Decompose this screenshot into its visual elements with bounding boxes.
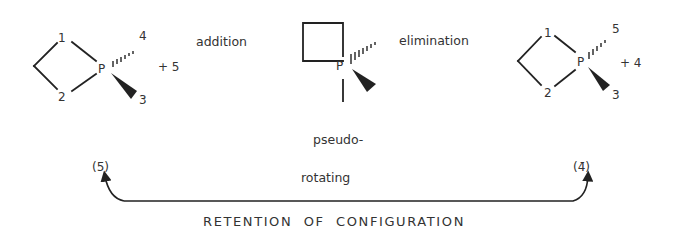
- bond-1-C: [34, 43, 57, 66]
- arrow-right-icon: [124, 176, 588, 201]
- wedge-bond-icon: [111, 73, 137, 99]
- bond-1-P: [72, 42, 96, 61]
- label-pseudo: pseudo-: [313, 132, 363, 147]
- arrow-left-icon: [105, 176, 124, 201]
- label-5-bar: (5̄): [92, 160, 109, 174]
- hashed-bond-icon: [589, 40, 605, 59]
- hashed-bond-icon: [113, 51, 133, 67]
- caption-retention: RETENTION OF CONFIGURATION: [203, 214, 465, 229]
- reactant-structure: 1 2 P 4 3 + 5: [34, 29, 180, 107]
- bond-C-2: [34, 66, 57, 89]
- substituent-3: 3: [139, 93, 147, 107]
- bond-C-2: [518, 61, 541, 85]
- square-ring: [303, 23, 343, 61]
- bond-2-P: [555, 70, 575, 86]
- reaction-diagram: 1 2 P 4 3 + 5 addition P pseudo- rotatin…: [0, 0, 682, 239]
- phosphorus-atom: P: [577, 55, 584, 69]
- substituent-5: 5: [612, 22, 620, 36]
- step-addition: addition: [196, 34, 247, 49]
- wedge-bond-icon: [588, 67, 610, 91]
- ring-label-1: 1: [544, 26, 552, 40]
- bond-2-P: [72, 74, 96, 91]
- step-elimination: elimination: [399, 33, 469, 48]
- wedge-bond-icon: [352, 69, 376, 92]
- label-4-bar: (4̄): [573, 160, 590, 174]
- substituent-4: 4: [139, 29, 147, 43]
- bond-1-C: [518, 37, 541, 61]
- intermediate-structure: P: [303, 23, 376, 101]
- plus-term-reactant: + 5: [158, 60, 180, 74]
- ring-label-1: 1: [58, 31, 66, 45]
- phosphorus-atom: P: [98, 62, 105, 76]
- plus-term-product: + 4: [620, 56, 642, 70]
- hashed-bond-icon: [351, 42, 375, 64]
- label-rotating: rotating: [301, 170, 350, 185]
- bond-1-P: [555, 36, 575, 52]
- ring-label-2: 2: [58, 90, 66, 104]
- product-structure: 1 2 P 5 3 + 4: [518, 22, 642, 102]
- ring-label-2: 2: [544, 86, 552, 100]
- substituent-3: 3: [612, 88, 620, 102]
- phosphorus-atom: P: [336, 59, 343, 73]
